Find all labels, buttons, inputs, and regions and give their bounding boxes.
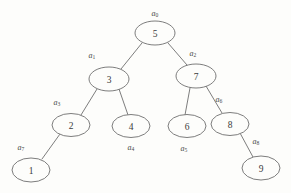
node-label-subscript: 0 <box>156 12 159 18</box>
tree-edge-n1-n4 <box>119 89 128 115</box>
tree-edge-n6-n8 <box>240 133 253 157</box>
node-label-a3: a3 <box>54 98 61 108</box>
node-label-a8: a8 <box>253 137 260 147</box>
tree-edge-n0-n1 <box>121 43 142 69</box>
node-value-9: 9 <box>259 164 264 174</box>
node-label-a5: a5 <box>181 144 188 154</box>
tree-edge-n0-n2 <box>168 43 187 65</box>
node-value-1: 1 <box>29 166 34 176</box>
node-label-a6: a6 <box>216 95 223 105</box>
node-value-8: 8 <box>228 120 233 130</box>
tree-node-1[interactable]: 1a7 <box>12 143 50 183</box>
tree-edge-n2-n5 <box>185 88 190 115</box>
node-label-subscript: 4 <box>132 146 135 152</box>
node-value-5: 5 <box>153 29 158 39</box>
tree-node-3[interactable]: 3a1 <box>89 51 129 92</box>
tree-node-5[interactable]: 5a0 <box>135 9 175 46</box>
node-label-a4: a4 <box>128 143 135 153</box>
node-label-a0: a0 <box>152 9 159 19</box>
node-value-3: 3 <box>107 75 112 85</box>
tree-node-2[interactable]: 2a3 <box>52 98 90 137</box>
node-label-subscript: 3 <box>58 101 61 107</box>
node-label-subscript: 5 <box>185 147 188 153</box>
node-label-a2: a2 <box>190 49 197 59</box>
node-label-subscript: 6 <box>220 98 223 104</box>
tree-node-7[interactable]: 7a2 <box>176 49 216 89</box>
tree-node-9[interactable]: 9a8 <box>242 137 280 181</box>
node-label-subscript: 1 <box>93 54 96 60</box>
tree-edge-n3-n7 <box>42 134 60 159</box>
tree-node-6[interactable]: 6a5 <box>168 115 206 154</box>
binary-tree-figure: 5a03a17a22a34a46a58a61a79a8 <box>0 0 291 193</box>
node-label-subscript: 2 <box>194 52 197 58</box>
node-value-2: 2 <box>69 121 74 131</box>
node-value-6: 6 <box>185 122 190 132</box>
node-label-subscript: 8 <box>257 140 260 146</box>
node-value-4: 4 <box>129 122 134 132</box>
node-label-a7: a7 <box>18 143 25 153</box>
node-layer: 5a03a17a22a34a46a58a61a79a8 <box>12 9 280 183</box>
tree-edge-n1-n3 <box>81 89 97 115</box>
node-value-7: 7 <box>194 72 199 82</box>
tree-canvas: 5a03a17a22a34a46a58a61a79a8 <box>0 0 291 193</box>
node-label-subscript: 7 <box>22 146 25 152</box>
tree-node-8[interactable]: 8a6 <box>211 95 249 136</box>
node-label-a1: a1 <box>89 51 96 61</box>
tree-node-4[interactable]: 4a4 <box>112 115 150 153</box>
